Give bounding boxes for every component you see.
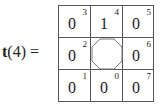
cell-index: 7: [147, 71, 152, 81]
grid-cell: 0 0: [91, 70, 123, 102]
cell-index: 4: [115, 7, 120, 17]
grid-cell: 0 7: [123, 70, 155, 102]
cell-value: 0: [68, 79, 76, 97]
octagon-icon: [91, 38, 123, 70]
cell-value: 0: [68, 15, 76, 33]
cell-value: 1: [100, 15, 108, 33]
cell-value: 0: [68, 47, 76, 65]
equation-lhs: t(4) =: [2, 42, 39, 62]
cell-value: 0: [132, 15, 140, 33]
neighborhood-grid: 0 3 1 4 0 5 0 2 0 6 0 1 0 0 0 7: [58, 5, 154, 102]
cell-index: 3: [83, 7, 88, 17]
grid-cell: 0 6: [123, 38, 155, 70]
function-argument: (4): [7, 43, 26, 60]
equals-sign: =: [30, 43, 39, 60]
cell-index: 0: [115, 71, 120, 81]
grid-cell: 0 5: [123, 6, 155, 38]
grid-cell: 0 2: [59, 38, 91, 70]
grid-cell: 0 3: [59, 6, 91, 38]
cell-index: 2: [83, 39, 88, 49]
cell-index: 5: [147, 7, 152, 17]
cell-index: 1: [83, 71, 88, 81]
cell-value: 0: [132, 47, 140, 65]
cell-value: 0: [132, 79, 140, 97]
cell-index: 6: [147, 39, 152, 49]
grid-cell: 0 1: [59, 70, 91, 102]
grid-cell: 1 4: [91, 6, 123, 38]
cell-value: 0: [100, 79, 108, 97]
